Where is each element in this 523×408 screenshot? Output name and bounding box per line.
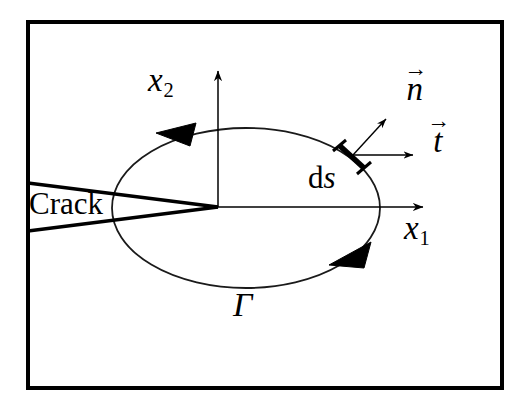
contour-direction-arrowhead-top bbox=[156, 123, 196, 146]
contour-label-gamma: Γ bbox=[233, 288, 252, 322]
crack-label: Crack bbox=[29, 188, 103, 219]
axis-label-x2: x2 bbox=[148, 64, 173, 97]
ds-label-d: d bbox=[308, 160, 324, 195]
axis-label-x1-base: x bbox=[404, 210, 419, 246]
normal-vector-arrow bbox=[353, 119, 386, 155]
ds-segment-bar bbox=[340, 146, 364, 168]
figure-canvas: x2 x1 Crack ds Γ → n → t bbox=[0, 0, 523, 408]
axis-label-x1: x1 bbox=[404, 212, 429, 245]
normal-vector-symbol: n bbox=[404, 74, 426, 105]
normal-vector-label: → n bbox=[404, 62, 426, 106]
ds-label: ds bbox=[308, 162, 336, 193]
axis-label-x2-base: x bbox=[148, 62, 163, 98]
ds-label-s: s bbox=[324, 160, 336, 195]
contour-direction-arrowhead-bottom bbox=[329, 242, 371, 268]
axis-label-x1-subscript: 1 bbox=[419, 227, 429, 249]
axis-label-x2-subscript: 2 bbox=[163, 79, 173, 101]
tangent-vector-label: → t bbox=[427, 114, 449, 158]
